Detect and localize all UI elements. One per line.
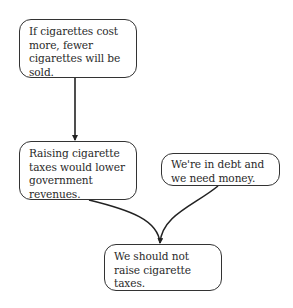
node-claim-lower-revenues: Raising cigarette taxes would lower gove… (19, 141, 137, 200)
node-premise-debt: We're in debt and we need money. (161, 153, 280, 186)
node-text: We should not raise cigarette taxes. (114, 250, 191, 289)
node-text: If cigarettes cost more, fewer cigarette… (29, 25, 120, 78)
node-premise-cigarette-price: If cigarettes cost more, fewer cigarette… (19, 19, 137, 78)
edge-n2-to-n4-curve (89, 200, 160, 243)
node-text: Raising cigarette taxes would lower gove… (29, 147, 125, 200)
node-text: We're in debt and we need money. (171, 158, 264, 184)
node-conclusion-no-tax-raise: We should not raise cigarette taxes. (104, 244, 222, 291)
edge-n3-to-n4-curve (160, 186, 218, 243)
